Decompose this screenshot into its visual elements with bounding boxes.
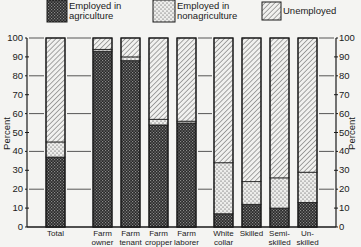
bars xyxy=(46,38,317,227)
bar-segment-agriculture xyxy=(121,61,140,227)
legend-label-unemployed: Unemployed xyxy=(283,6,336,16)
bar-segment-agriculture xyxy=(242,204,261,227)
y-tick-label-left: 90 xyxy=(3,52,23,62)
category-label: Un- skilled xyxy=(288,229,328,247)
category-label: Farm laborer xyxy=(167,229,207,247)
bar-segment-unemployed xyxy=(214,38,233,163)
legend-swatch-unemployed xyxy=(262,2,281,20)
y-tick-label-right: 20 xyxy=(339,184,350,194)
bar-segment-agriculture xyxy=(177,123,196,227)
bar-segment-nonagriculture xyxy=(214,163,233,214)
bar-segment-agriculture xyxy=(270,208,289,227)
bar-segment-unemployed xyxy=(298,38,317,172)
y-tick-label-left: 80 xyxy=(3,71,23,81)
bar-segment-unemployed xyxy=(177,38,196,121)
bar-segment-nonagriculture xyxy=(242,182,261,205)
y-tick-label-left: 70 xyxy=(3,90,23,100)
bar-segment-nonagriculture xyxy=(46,142,65,157)
bar-segment-unemployed xyxy=(270,38,289,178)
y-tick-label-left: 20 xyxy=(3,184,23,194)
legend-label-agriculture: Employed in agriculture xyxy=(69,1,121,21)
y-tick-label-left: 0 xyxy=(3,222,23,232)
bar-farm-owner xyxy=(93,38,112,227)
bar-un-skilled xyxy=(298,38,317,227)
y-tick-label-right: 80 xyxy=(339,71,350,81)
legend-label-nonagriculture: Employed in nonagriculture xyxy=(177,1,237,21)
bar-farm-tenant xyxy=(121,38,140,227)
bar-segment-nonagriculture xyxy=(149,119,168,125)
bar-segment-nonagriculture xyxy=(121,57,140,61)
y-tick-label-right: 70 xyxy=(339,90,350,100)
y-axis-label-left: Percent xyxy=(1,117,12,150)
y-tick-label-left: 100 xyxy=(3,33,23,43)
y-tick-label-left: 30 xyxy=(3,165,23,175)
bar-segment-unemployed xyxy=(93,38,112,49)
y-tick-label-right: 90 xyxy=(339,52,350,62)
bar-segment-unemployed xyxy=(121,38,140,57)
y-tick-label-right: 0 xyxy=(339,222,344,232)
category-label: Total xyxy=(36,229,76,238)
bar-segment-nonagriculture xyxy=(298,172,317,202)
bar-segment-agriculture xyxy=(214,214,233,227)
bar-farm-cropper xyxy=(149,38,168,227)
legend-swatch-nonagriculture xyxy=(153,0,175,22)
bar-segment-agriculture xyxy=(298,202,317,227)
bar-segment-agriculture xyxy=(46,157,65,227)
y-tick-label-right: 30 xyxy=(339,165,350,175)
bar-segment-agriculture xyxy=(93,51,112,227)
bar-segment-nonagriculture xyxy=(270,178,289,208)
bar-skilled xyxy=(242,38,261,227)
y-tick-label-right: 10 xyxy=(339,203,350,213)
bar-segment-agriculture xyxy=(149,125,168,227)
y-axis-label-right: Percent xyxy=(346,117,357,150)
bar-total xyxy=(46,38,65,227)
bar-semi-skilled xyxy=(270,38,289,227)
legend-swatch-agriculture xyxy=(47,0,67,22)
bar-segment-unemployed xyxy=(46,38,65,142)
bar-segment-unemployed xyxy=(242,38,261,182)
bar-segment-unemployed xyxy=(149,38,168,119)
y-tick-label-left: 10 xyxy=(3,203,23,213)
bar-farm-laborer xyxy=(177,38,196,227)
bar-white-collar xyxy=(214,38,233,227)
y-tick-label-right: 100 xyxy=(339,33,355,43)
